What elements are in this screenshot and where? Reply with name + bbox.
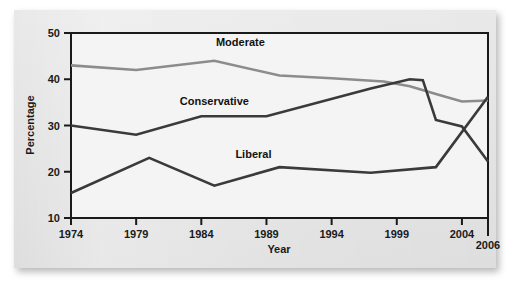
y-tick-label: 50 xyxy=(48,27,60,39)
x-tick-label: 1979 xyxy=(124,228,148,240)
x-axis-title: Year xyxy=(267,243,291,255)
x-tick-label: 2004 xyxy=(450,228,475,240)
figure-root: 1020304050 19741979198419891994199920042… xyxy=(0,0,512,286)
x-tick-label: 1999 xyxy=(385,228,409,240)
y-axis-title: Percentage xyxy=(24,95,36,154)
y-axis-tick-labels: 1020304050 xyxy=(48,27,60,224)
x-tick-label: 1984 xyxy=(189,228,214,240)
y-tick-label: 10 xyxy=(48,212,60,224)
series-label-conservative: Conservative xyxy=(180,95,249,107)
x-tick-label: 2006 xyxy=(476,239,500,251)
x-tick-label: 1974 xyxy=(59,228,84,240)
x-tick-label: 1994 xyxy=(319,228,344,240)
series-label-liberal: Liberal xyxy=(235,148,271,160)
y-tick-label: 20 xyxy=(48,166,60,178)
y-tick-label: 40 xyxy=(48,73,60,85)
series-label-moderate: Moderate xyxy=(216,36,265,48)
y-axis-ticks xyxy=(64,33,71,218)
line-chart: 1020304050 19741979198419891994199920042… xyxy=(0,0,512,286)
y-tick-label: 30 xyxy=(48,120,60,132)
x-tick-label: 1989 xyxy=(254,228,278,240)
plot-area xyxy=(71,33,488,218)
